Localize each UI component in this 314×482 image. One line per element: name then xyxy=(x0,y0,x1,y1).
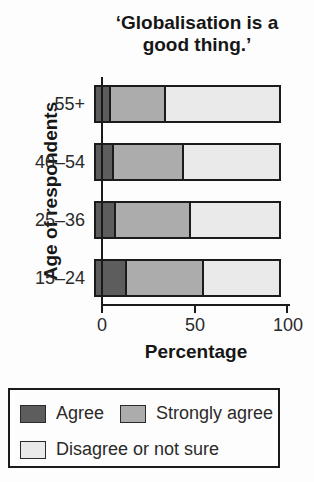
bar-row: 55+ xyxy=(0,85,314,123)
bar-segment-strongly-agree xyxy=(111,87,166,121)
legend: Agree Strongly agree Disagree or not sur… xyxy=(8,388,280,468)
legend-row-2: Disagree or not sure xyxy=(20,439,270,460)
stacked-bar xyxy=(94,259,281,297)
bars: 55+40–5425–3615–24 xyxy=(0,85,314,317)
bar-segment-agree xyxy=(96,203,116,237)
chart-title: ‘Globalisation is a good thing.’ xyxy=(90,12,304,56)
legend-swatch-disagree xyxy=(20,441,46,459)
bar-segment-strongly-agree xyxy=(127,261,204,295)
stacked-bar xyxy=(94,85,281,123)
bar-segment-disagree-or-not-sure xyxy=(166,87,279,121)
chart-title-line1: ‘Globalisation is a xyxy=(90,12,304,34)
chart-title-line2: good thing.’ xyxy=(90,34,304,56)
bar-row: 40–54 xyxy=(0,143,314,181)
bar-row: 15–24 xyxy=(0,259,314,297)
bar-segment-disagree-or-not-sure xyxy=(184,145,279,179)
legend-swatch-agree xyxy=(20,405,46,423)
bar-segment-strongly-agree xyxy=(116,203,191,237)
legend-item-agree: Agree xyxy=(20,403,104,424)
x-tick-label-0: 0 xyxy=(82,315,122,336)
bar-segment-strongly-agree xyxy=(114,145,184,179)
category-label: 55+ xyxy=(0,94,94,115)
category-label: 15–24 xyxy=(0,268,94,289)
bar-segment-disagree-or-not-sure xyxy=(191,203,279,237)
x-tick-label-50: 50 xyxy=(175,315,215,336)
bar-row: 25–36 xyxy=(0,201,314,239)
stacked-bar xyxy=(94,143,281,181)
legend-row-1: Agree Strongly agree xyxy=(20,403,270,424)
legend-label-agree: Agree xyxy=(56,403,104,424)
category-label: 40–54 xyxy=(0,152,94,173)
y-axis-line xyxy=(101,77,103,306)
x-tick-label-100: 100 xyxy=(268,315,308,336)
x-tick-100 xyxy=(286,306,288,313)
legend-swatch-strongly-agree xyxy=(120,405,146,423)
stacked-bar xyxy=(94,201,281,239)
legend-label-disagree: Disagree or not sure xyxy=(56,439,219,460)
chart-figure: ‘Globalisation is a good thing.’ Age of … xyxy=(0,0,314,482)
x-tick-50 xyxy=(194,306,196,313)
x-axis-label: Percentage xyxy=(106,341,286,363)
bar-segment-agree xyxy=(96,145,114,179)
legend-label-strongly-agree: Strongly agree xyxy=(156,403,273,424)
legend-item-strongly-agree: Strongly agree xyxy=(120,403,273,424)
legend-item-disagree: Disagree or not sure xyxy=(20,439,219,460)
category-label: 25–36 xyxy=(0,210,94,231)
x-tick-0 xyxy=(101,306,103,313)
bar-segment-disagree-or-not-sure xyxy=(204,261,279,295)
bar-segment-agree xyxy=(96,87,111,121)
